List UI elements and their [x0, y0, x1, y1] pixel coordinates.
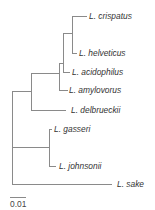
taxon-label-acidophilus: L. acidophilus [72, 68, 123, 76]
taxon-label-helveticus: L. helveticus [79, 49, 126, 57]
taxon-label-sake: L. sake [117, 180, 144, 188]
taxon-label-johnsonii: L. johnsonii [59, 162, 101, 170]
taxon-label-delbrueckii: L. delbrueckii [71, 106, 120, 114]
taxon-label-crispatus: L. crispatus [89, 12, 132, 20]
scale-bar-label: 0.01 [10, 200, 26, 208]
taxon-label-gasseri: L. gasseri [54, 125, 90, 133]
taxon-label-amylovorus: L. amylovorus [69, 86, 121, 94]
